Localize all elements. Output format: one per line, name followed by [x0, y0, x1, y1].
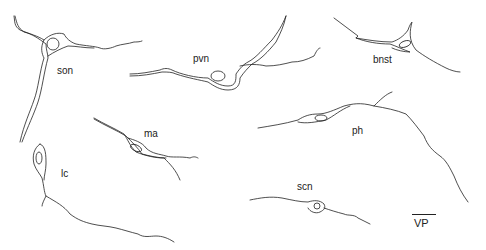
scale-label: VP [414, 218, 429, 229]
neuron-drawings [0, 0, 486, 250]
neuron-ph [258, 92, 468, 202]
label-bnst: bnst [373, 55, 392, 65]
neuron-pvn [130, 16, 320, 90]
label-ma: ma [144, 129, 158, 139]
label-lc: lc [61, 169, 68, 179]
label-scn: scn [297, 182, 313, 192]
neuron-son [14, 16, 142, 142]
neuron-bnst [334, 18, 460, 72]
scale-bar [412, 214, 436, 215]
neuron-scn [250, 197, 370, 224]
label-pvn: pvn [193, 54, 209, 64]
label-ph: ph [352, 126, 363, 136]
label-son: son [57, 66, 73, 76]
neuron-lc [33, 144, 174, 242]
